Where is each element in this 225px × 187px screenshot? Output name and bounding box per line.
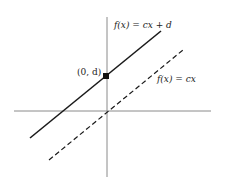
y-intercept-point	[103, 73, 109, 79]
label-cx: f(x) = cx	[156, 74, 196, 84]
label-point-0-d: (0, d)	[77, 67, 101, 77]
linear-function-diagram: f(x) = cx + d f(x) = cx (0, d)	[0, 0, 225, 187]
background	[0, 0, 225, 187]
label-cx-plus-d: f(x) = cx + d	[113, 20, 172, 30]
